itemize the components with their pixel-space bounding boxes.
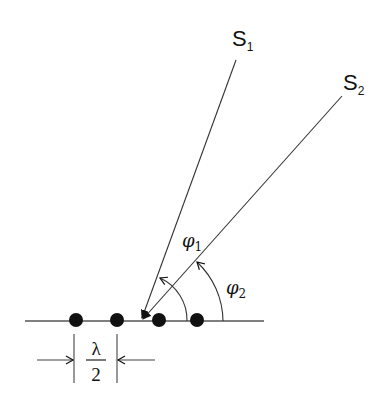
array-element-4 [190, 313, 204, 327]
angle-arc-phi2 [197, 262, 223, 321]
array-element-1 [69, 313, 83, 327]
ray-s1 [142, 60, 236, 318]
angle-label-phi1: φ1 [182, 230, 202, 254]
array-element-2 [110, 313, 124, 327]
spacing-numerator: λ [91, 338, 101, 359]
diagram-svg: λ 2 S1 S2 φ1 φ2 [0, 0, 380, 411]
ray-s2 [143, 96, 342, 319]
angle-label-phi2: φ2 [226, 277, 246, 301]
array-diagram: λ 2 S1 S2 φ1 φ2 [0, 0, 380, 411]
array-element-3 [152, 313, 166, 327]
source-label-s2: S2 [343, 70, 365, 98]
spacing-denominator: 2 [91, 364, 101, 385]
source-label-s1: S1 [232, 26, 254, 54]
